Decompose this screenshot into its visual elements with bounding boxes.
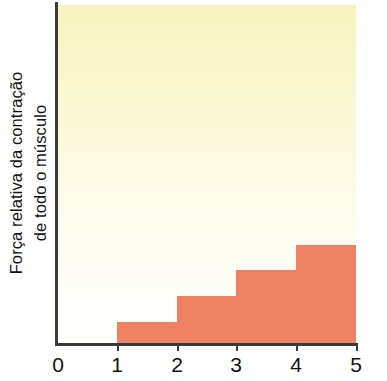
y-axis-label-rotated: Força relativa da contração de todo o mú… bbox=[2, 3, 54, 343]
x-tick-2 bbox=[177, 343, 179, 351]
bar-step-2-3 bbox=[177, 296, 236, 345]
x-tick-3 bbox=[236, 343, 238, 351]
x-tick-label-2: 2 bbox=[162, 352, 192, 378]
x-tick-label-4: 4 bbox=[281, 352, 311, 378]
y-axis-label: Força relativa da contração de todo o mú… bbox=[0, 0, 56, 345]
x-axis-line bbox=[55, 343, 358, 346]
y-axis-label-line-2: de todo o músculo bbox=[28, 104, 52, 241]
x-tick-label-1: 1 bbox=[102, 352, 132, 378]
x-tick-5 bbox=[356, 343, 358, 351]
bar-step-4-5 bbox=[296, 245, 356, 345]
x-tick-4 bbox=[296, 343, 298, 351]
x-tick-1 bbox=[117, 343, 119, 351]
recruitment-step-chart: Força relativa da contração de todo o mú… bbox=[0, 0, 387, 381]
x-tick-label-0: 0 bbox=[43, 352, 73, 378]
x-tick-label-5: 5 bbox=[341, 352, 371, 378]
y-axis-label-line-1: Força relativa da contração bbox=[4, 71, 28, 274]
y-axis-line bbox=[55, 2, 58, 346]
bar-step-3-4 bbox=[236, 270, 296, 345]
bar-step-1-2 bbox=[117, 322, 177, 345]
x-tick-label-3: 3 bbox=[221, 352, 251, 378]
plot-area bbox=[58, 5, 356, 345]
